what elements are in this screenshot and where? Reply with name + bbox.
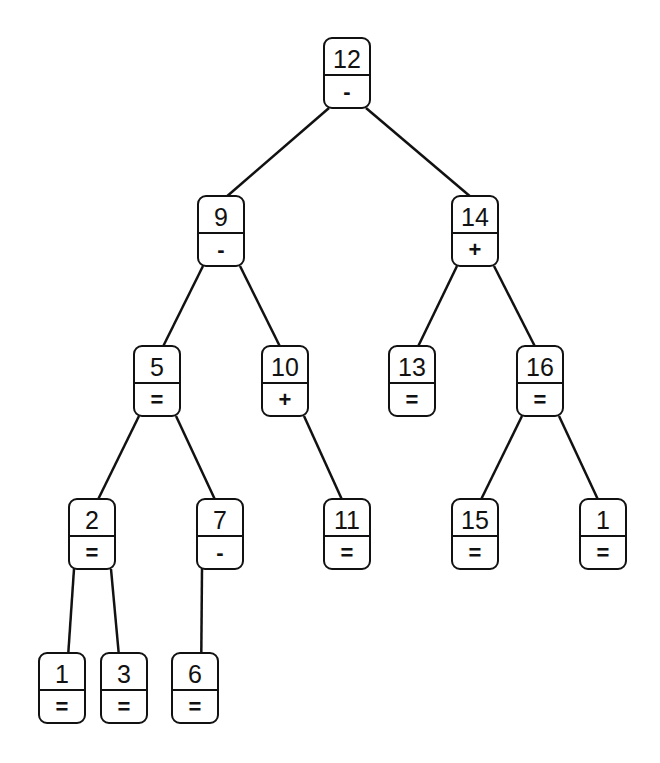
node-key: 1 [581, 500, 625, 537]
tree-edge [494, 266, 535, 346]
tree-node-6: 6 = [171, 652, 219, 724]
tree-edge [201, 569, 202, 653]
node-key: 6 [173, 654, 217, 691]
tree-edge [418, 266, 457, 346]
tree-edge [240, 266, 280, 346]
node-key: 10 [263, 347, 307, 384]
tree-node-2: 2 = [68, 498, 116, 570]
node-key: 14 [453, 197, 497, 234]
node-balance: + [263, 384, 307, 415]
tree-edge [111, 569, 119, 653]
node-balance: = [102, 691, 146, 722]
node-key: 16 [518, 347, 562, 384]
tree-node-10: 10 + [261, 345, 309, 417]
tree-edge [481, 416, 522, 499]
tree-edge [227, 108, 329, 196]
node-balance: = [581, 537, 625, 568]
tree-node-9: 9 - [197, 195, 245, 267]
node-balance: = [40, 691, 84, 722]
node-key: 5 [135, 347, 179, 384]
tree-edge [559, 416, 598, 499]
node-key: 12 [325, 39, 369, 76]
tree-node-16: 16 = [516, 345, 564, 417]
node-key: 11 [325, 500, 369, 537]
node-balance: - [325, 76, 369, 107]
node-balance: - [198, 537, 242, 568]
node-key: 9 [199, 197, 243, 234]
node-balance: = [453, 537, 497, 568]
node-balance: = [518, 384, 562, 415]
node-balance: = [390, 384, 434, 415]
node-key: 13 [390, 347, 434, 384]
node-key: 2 [70, 500, 114, 537]
node-key: 3 [102, 654, 146, 691]
node-key: 15 [453, 500, 497, 537]
tree-edge [98, 416, 139, 499]
node-balance: = [70, 537, 114, 568]
tree-edge [163, 266, 203, 346]
node-balance: = [135, 384, 179, 415]
node-balance: + [453, 234, 497, 265]
tree-node-3: 3 = [100, 652, 148, 724]
node-balance: - [199, 234, 243, 265]
tree-node-15: 15 = [451, 498, 499, 570]
tree-node-13: 13 = [388, 345, 436, 417]
node-key: 7 [198, 500, 242, 537]
tree-node-5: 5 = [133, 345, 181, 417]
node-key: 1 [40, 654, 84, 691]
tree-edge [68, 569, 74, 653]
tree-edge [304, 416, 342, 499]
tree-edge [176, 416, 215, 499]
tree-node-12: 12 - [323, 37, 371, 109]
tree-node-7: 7 - [196, 498, 244, 570]
tree-node-11: 11 = [323, 498, 371, 570]
tree-edge [366, 108, 470, 196]
tree-node-1-right: 1 = [579, 498, 627, 570]
node-balance: = [173, 691, 217, 722]
node-balance: = [325, 537, 369, 568]
tree-node-14: 14 + [451, 195, 499, 267]
tree-node-1: 1 = [38, 652, 86, 724]
